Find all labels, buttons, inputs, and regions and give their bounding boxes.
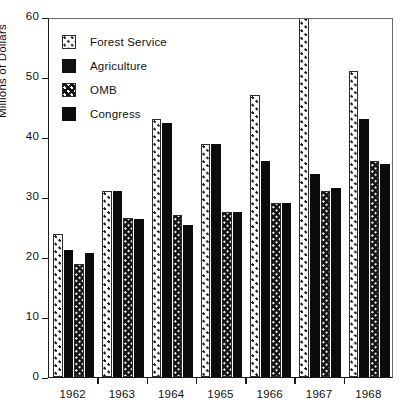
legend-item-congress: Congress [62,102,167,126]
x-tick-label-1968: 1968 [344,388,393,400]
x-tick-mark [344,378,345,384]
y-tick-mark [42,18,48,19]
y-tick-mark [42,198,48,199]
y-tick-mark [42,138,48,139]
x-axis: 1962196319641965196619671968 [48,378,393,418]
y-tick-mark [42,258,48,259]
black-swatch [62,59,76,73]
y-tick-label: 50 [26,70,39,82]
x-tick-mark [97,378,98,384]
legend-item-forest-service: Forest Service [62,30,167,54]
legend-label: OMB [90,84,117,96]
x-tick-mark [196,378,197,384]
y-tick-label: 60 [26,10,39,22]
y-tick-label: 0 [32,370,39,382]
y-tick-mark [42,318,48,319]
legend-label: Forest Service [90,36,167,48]
y-tick-label: 20 [26,250,39,262]
legend-item-omb: OMB [62,78,167,102]
x-tick-mark [147,378,148,384]
x-tick-label-1962: 1962 [48,388,97,400]
x-tick-label-1967: 1967 [294,388,343,400]
x-tick-label-1963: 1963 [97,388,146,400]
y-axis-title: Millions of Dollars [0,24,8,118]
bar-chart: 0102030405060 Millions of Dollars 196219… [0,0,416,419]
x-tick-label-1966: 1966 [245,388,294,400]
x-tick-label-1964: 1964 [147,388,196,400]
y-tick-mark [42,78,48,79]
x-tick-mark [245,378,246,384]
legend: Forest ServiceAgricultureOMBCongress [62,30,167,126]
legend-item-agriculture: Agriculture [62,54,167,78]
legend-label: Congress [90,108,141,120]
y-tick-label: 30 [26,190,39,202]
y-tick-label: 40 [26,130,39,142]
black-swatch [62,107,76,121]
x-tick-label-1965: 1965 [196,388,245,400]
crosshatch-swatch [62,83,76,97]
legend-label: Agriculture [90,60,147,72]
y-tick-label: 10 [26,310,39,322]
x-tick-mark [294,378,295,384]
dotted-swatch [62,35,76,49]
